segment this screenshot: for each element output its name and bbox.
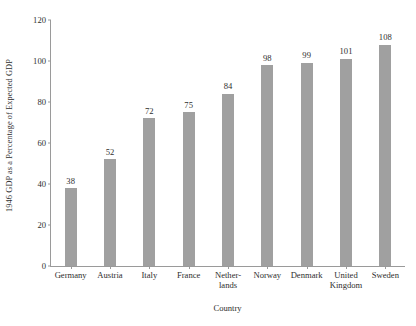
x-axis-tick-mark bbox=[71, 266, 72, 269]
x-axis-tick-mark bbox=[149, 266, 150, 269]
x-axis-tick-mark bbox=[267, 266, 268, 269]
bar-group: 38 bbox=[51, 20, 90, 266]
x-axis-tick-label: UnitedKingdom bbox=[330, 270, 362, 291]
x-axis-tick-label: Austria bbox=[97, 270, 122, 280]
y-axis-tick-label: 60 bbox=[37, 138, 51, 148]
bar-group: 84 bbox=[208, 20, 247, 266]
bar-value-label: 108 bbox=[379, 33, 392, 42]
bar-value-label: 84 bbox=[224, 82, 233, 91]
x-axis-tick-mark bbox=[110, 266, 111, 269]
x-axis-tick-label-line: lands bbox=[215, 280, 241, 290]
x-axis-tick-mark bbox=[385, 266, 386, 269]
x-axis-tick-label-line: Sweden bbox=[372, 270, 399, 280]
y-axis-title-text: 1946 GDP as a Percentage of Expected GDP bbox=[5, 59, 14, 212]
bar-group: 72 bbox=[130, 20, 169, 266]
x-axis-tick-mark bbox=[228, 266, 229, 269]
x-axis-tick-label-line: Austria bbox=[97, 270, 122, 280]
x-axis-tick-mark bbox=[346, 266, 347, 269]
x-axis-tick-mark bbox=[189, 266, 190, 269]
x-axis-tick-label-line: Norway bbox=[253, 270, 281, 280]
bar-group: 101 bbox=[326, 20, 365, 266]
x-axis-tick-label: Norway bbox=[253, 270, 281, 280]
bar bbox=[261, 65, 273, 266]
bar-value-label: 72 bbox=[145, 107, 154, 116]
bar bbox=[104, 159, 116, 266]
x-axis-tick-label: Sweden bbox=[372, 270, 399, 280]
x-axis-tick-label-line: France bbox=[177, 270, 200, 280]
bar bbox=[222, 94, 234, 266]
y-axis-tick-label: 40 bbox=[37, 179, 51, 189]
bar-value-label: 98 bbox=[263, 54, 272, 63]
bar-group: 108 bbox=[366, 20, 405, 266]
bar bbox=[340, 59, 352, 266]
x-axis-tick-label: Nether-lands bbox=[215, 270, 241, 291]
x-axis-tick-mark bbox=[307, 266, 308, 269]
bar bbox=[379, 45, 391, 266]
bar bbox=[143, 118, 155, 266]
y-axis-tick-label: 80 bbox=[37, 97, 51, 107]
x-axis-tick-label-line: Kingdom bbox=[330, 280, 362, 290]
x-axis-tick-label: Denmark bbox=[291, 270, 323, 280]
bar bbox=[65, 188, 77, 266]
bar-value-label: 99 bbox=[302, 51, 311, 60]
bar-group: 99 bbox=[287, 20, 326, 266]
x-axis-tick-label-line: Denmark bbox=[291, 270, 323, 280]
x-axis-tick-label-line: Italy bbox=[141, 270, 157, 280]
x-axis-tick-label: Italy bbox=[141, 270, 157, 280]
plot-area: 02040608010012038Germany52Austria72Italy… bbox=[50, 20, 405, 267]
bar-chart-figure: 1946 GDP as a Percentage of Expected GDP… bbox=[0, 0, 416, 326]
bar-group: 98 bbox=[248, 20, 287, 266]
bar-value-label: 52 bbox=[106, 148, 115, 157]
bar-value-label: 101 bbox=[340, 47, 353, 56]
y-axis-tick-label: 120 bbox=[33, 15, 51, 25]
y-axis-tick-label: 0 bbox=[42, 261, 51, 271]
bar-value-label: 38 bbox=[66, 177, 75, 186]
bar-group: 52 bbox=[90, 20, 129, 266]
bar bbox=[183, 112, 195, 266]
bar-group: 75 bbox=[169, 20, 208, 266]
x-axis-title-text: Country bbox=[213, 303, 241, 313]
bar bbox=[301, 63, 313, 266]
x-axis-tick-label: France bbox=[177, 270, 200, 280]
y-axis-title: 1946 GDP as a Percentage of Expected GDP bbox=[0, 0, 18, 270]
x-axis-tick-label-line: Nether- bbox=[215, 270, 241, 280]
x-axis-tick-label-line: United bbox=[330, 270, 362, 280]
y-axis-tick-label: 100 bbox=[33, 56, 51, 66]
x-axis-title: Country bbox=[50, 303, 405, 313]
y-axis-tick-label: 20 bbox=[37, 220, 51, 230]
x-axis-tick-label-line: Germany bbox=[55, 270, 87, 280]
x-axis-tick-label: Germany bbox=[55, 270, 87, 280]
bar-value-label: 75 bbox=[184, 101, 193, 110]
